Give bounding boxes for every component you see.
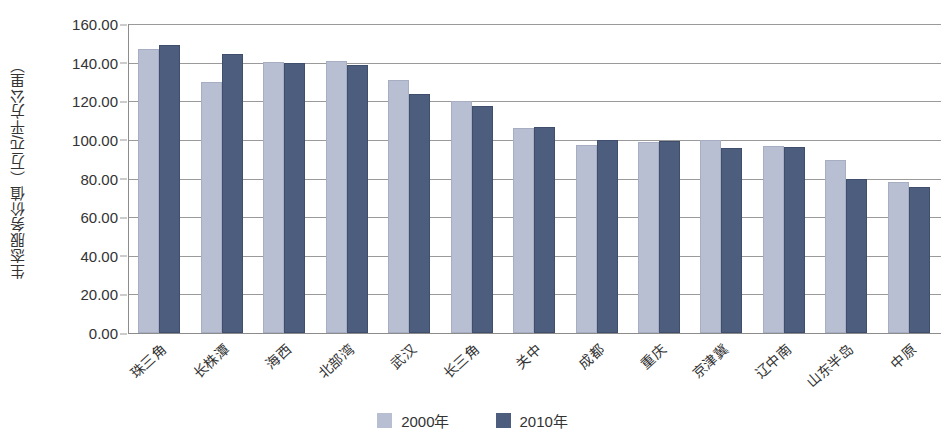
legend-label: 2010年 [520,410,568,431]
gridline [129,24,941,25]
x-axis-tick-label: 长株潭 [190,342,231,381]
x-axis-tick-label-cell: 长株潭 [190,334,252,406]
y-axis-tick-label: 140.00 [32,54,118,71]
plot-area [128,24,941,334]
legend-swatch-icon [496,413,511,428]
y-axis-tick-label: 40.00 [32,247,118,264]
x-axis-tick-labels: 珠三角长株潭海西北部湾武汉长三角关中成都重庆京津冀辽中南山东半岛中原 [128,334,940,406]
x-axis-tick-label: 关中 [513,342,543,371]
y-axis-tick-label: 20.00 [32,286,118,303]
x-axis-tick-label: 珠三角 [128,342,169,381]
y-axis-title-text: 生态服务价值（万元/平方公里） [10,57,25,279]
x-axis-tick-label: 重庆 [638,342,668,371]
y-axis-tick-label: 60.00 [32,209,118,226]
x-axis-tick-label-cell: 辽中南 [753,334,815,406]
x-axis-tick-label: 京津冀 [690,342,731,381]
x-axis-tick-label-cell: 山东半岛 [815,334,877,406]
x-axis-tick-label-cell: 京津冀 [690,334,752,406]
y-axis-tick-label: 0.00 [32,325,118,342]
x-axis-tick-label: 成都 [576,342,606,371]
x-axis-tick-label-cell: 北部湾 [315,334,377,406]
legend-swatch-icon [377,413,392,428]
gridline [129,179,941,180]
legend-item[interactable]: 2010年 [496,410,568,431]
x-axis-tick-label: 北部湾 [315,342,356,381]
y-axis-tick-label: 100.00 [32,131,118,148]
y-axis-tick-label: 120.00 [32,93,118,110]
x-axis-tick-label: 长三角 [440,342,481,381]
x-axis-tick-label-cell: 重庆 [628,334,690,406]
y-axis-tick-labels: 160.00140.00120.00100.0080.0060.0040.002… [24,24,118,333]
x-axis-tick-label-cell: 关中 [503,334,565,406]
legend-label: 2000年 [401,410,449,431]
gridline [129,256,941,257]
bar-chart: 生态服务价值（万元/平方公里） 160.00140.00120.00100.00… [0,0,945,442]
gridline [129,294,941,295]
x-axis-tick-label-cell: 长三角 [440,334,502,406]
x-axis-tick-label: 辽中南 [753,342,794,381]
x-axis-tick-label-cell: 成都 [565,334,627,406]
x-axis-tick-label: 海西 [263,342,293,371]
gridline [129,217,941,218]
x-axis-tick-label: 中原 [888,342,918,371]
y-axis-tick-label: 160.00 [32,16,118,33]
gridline [129,140,941,141]
gridline [129,63,941,64]
chart-legend: 2000年2010年 [0,410,945,431]
x-axis-tick-label-cell: 珠三角 [128,334,190,406]
x-axis-tick-label-cell: 中原 [878,334,940,406]
y-axis-tick-label: 80.00 [32,170,118,187]
legend-item[interactable]: 2000年 [377,410,449,431]
x-axis-tick-label: 武汉 [388,342,418,371]
gridline [129,101,941,102]
x-axis-tick-label-cell: 武汉 [378,334,440,406]
x-axis-tick-label-cell: 海西 [253,334,315,406]
